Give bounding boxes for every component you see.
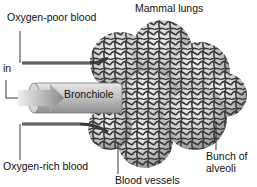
label-blood-vessels: Blood vessels xyxy=(115,174,180,186)
label-in: in xyxy=(3,62,11,74)
label-bunch-of-alveoli-line2: alveoli xyxy=(206,162,236,174)
label-bunch-of-alveoli-line1: Bunch of xyxy=(206,150,247,162)
diagram-title: Mammal lungs xyxy=(135,2,203,14)
label-oxygen-rich-blood: Oxygen-rich blood xyxy=(3,160,88,172)
mammal-lungs-diagram: Oxygen-poor blood Mammal lungs in Bronch… xyxy=(0,0,257,187)
label-bronchiole: Bronchiole xyxy=(64,88,114,100)
label-oxygen-poor-blood: Oxygen-poor blood xyxy=(7,11,96,23)
